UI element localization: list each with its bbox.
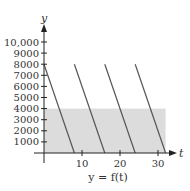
shaded-region <box>44 109 166 153</box>
y-tick-label: 3000 <box>14 114 39 125</box>
y-tick-label: 5000 <box>14 92 39 103</box>
shaded-band <box>44 109 166 153</box>
y-tick-label: 4000 <box>14 103 39 114</box>
y-axis-label: y <box>40 12 48 25</box>
y-tick-label: 10,000 <box>4 37 39 48</box>
x-tick-label: 10 <box>76 158 89 169</box>
sawtooth-chart: 10002000300040005000600070008000900010,0… <box>0 0 190 191</box>
x-axis-arrow-icon <box>169 150 177 156</box>
x-tick-label: 30 <box>152 158 165 169</box>
y-tick-label: 7000 <box>14 70 39 81</box>
y-tick-label: 2000 <box>14 125 39 136</box>
y-tick-label: 8000 <box>14 59 39 70</box>
chart-caption: y = f(t) <box>87 171 128 184</box>
x-tick-label: 20 <box>114 158 127 169</box>
y-axis-arrow-icon <box>41 24 47 32</box>
x-axis-label: t <box>179 147 184 160</box>
y-tick-label: 1000 <box>14 136 39 147</box>
y-tick-label: 9000 <box>14 48 39 59</box>
y-tick-label: 6000 <box>14 81 39 92</box>
